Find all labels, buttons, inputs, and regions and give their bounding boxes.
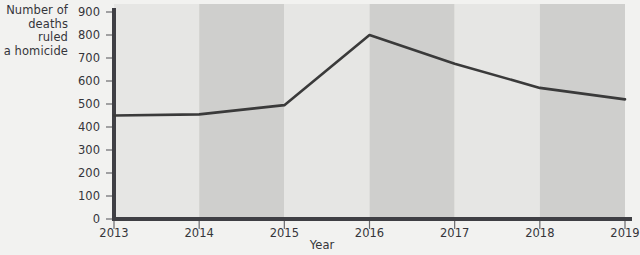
background-band	[455, 4, 540, 219]
y-tick-label: 400	[58, 120, 100, 134]
y-tick-label: 100	[58, 189, 100, 203]
y-tick-label: 700	[58, 51, 100, 65]
x-tick-label: 2016	[355, 226, 384, 240]
x-tick-label: 2018	[525, 226, 554, 240]
x-tick-label: 2015	[270, 226, 299, 240]
y-tick-label: 500	[58, 97, 100, 111]
background-band	[114, 4, 199, 219]
x-tick-label: 2013	[99, 226, 128, 240]
background-band	[540, 4, 625, 219]
y-tick-label: 600	[58, 74, 100, 88]
background-band	[370, 4, 455, 219]
x-tick-label: 2019	[610, 226, 639, 240]
x-tick-label: 2014	[185, 226, 214, 240]
y-tick-label: 800	[58, 28, 100, 42]
y-tick-label: 200	[58, 166, 100, 180]
y-tick-label: 0	[58, 212, 100, 226]
x-tick-label: 2017	[440, 226, 469, 240]
y-tick-label: 300	[58, 143, 100, 157]
background-band	[199, 4, 284, 219]
y-tick-label: 900	[58, 5, 100, 19]
background-band	[284, 4, 369, 219]
